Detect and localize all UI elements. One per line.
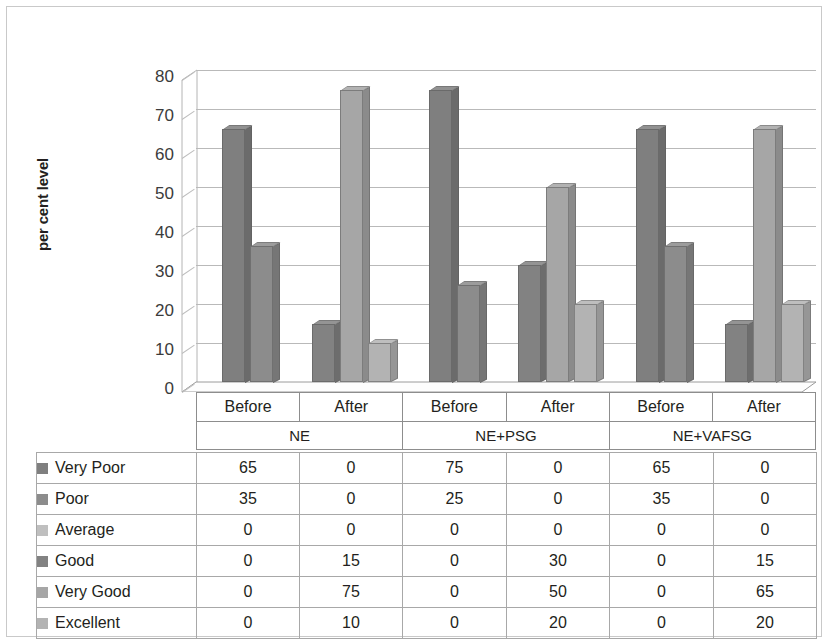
legend-label: Very Good [55, 583, 131, 600]
table-cell-r2-c0: 0 [197, 515, 300, 546]
table-cell-r1-c0: 35 [197, 484, 300, 515]
y-axis-tick-70: 70 [126, 107, 174, 124]
table-cell-r2-c4: 0 [610, 515, 714, 546]
bar-series-container [182, 70, 816, 392]
y-axis-tick-50: 50 [126, 185, 174, 202]
bar-face [429, 90, 452, 383]
y-axis-tick-30: 30 [126, 263, 174, 280]
bar-very-good-cat-1 [340, 90, 363, 383]
bar-face [518, 265, 541, 382]
bar-face [546, 187, 569, 382]
table-cell-r0-c0: 65 [197, 453, 300, 484]
bar-face [664, 246, 687, 383]
legend-entry-very-good: Very Good [37, 577, 197, 608]
table-cell-r5-c1: 10 [300, 608, 403, 639]
legend-swatch-icon [37, 556, 48, 567]
bar-very-poor-cat-0 [222, 129, 245, 383]
table-row: Good015030015 [37, 546, 817, 577]
bar-face [636, 129, 659, 383]
legend-entry-good: Good [37, 546, 197, 577]
table-cell-r3-c2: 0 [403, 546, 507, 577]
legend-label: Very Poor [55, 459, 125, 476]
bar-very-good-cat-3 [546, 187, 569, 382]
table-cell-r1-c1: 0 [300, 484, 403, 515]
table-cell-r1-c2: 25 [403, 484, 507, 515]
bar-side [480, 281, 487, 382]
category-label-4: Before [610, 393, 713, 421]
y-axis-tick-labels: 80706050403020100 [126, 76, 174, 388]
bar-face [574, 304, 597, 382]
bar-face [368, 343, 391, 382]
table-cell-r5-c2: 0 [403, 608, 507, 639]
bar-excellent-cat-1 [368, 343, 391, 382]
table-cell-r4-c0: 0 [197, 577, 300, 608]
table-cell-r5-c0: 0 [197, 608, 300, 639]
bar-face [725, 324, 748, 383]
bar-face [222, 129, 245, 383]
category-label-row: BeforeAfterBeforeAfterBeforeAfter [197, 393, 815, 421]
group-label-ne: NE [197, 422, 403, 449]
table-cell-r2-c1: 0 [300, 515, 403, 546]
bar-very-good-cat-5 [753, 129, 776, 383]
data-table: Very Poor650750650Poor350250350Average00… [36, 452, 817, 639]
table-cell-r4-c2: 0 [403, 577, 507, 608]
bar-side [597, 301, 604, 382]
y-axis-title: per cent level [34, 115, 51, 295]
bar-excellent-cat-5 [781, 304, 804, 382]
legend-label: Excellent [55, 614, 120, 631]
bar-face [781, 304, 804, 382]
legend-label: Poor [55, 490, 89, 507]
y-axis-tick-20: 20 [126, 302, 174, 319]
table-cell-r3-c0: 0 [197, 546, 300, 577]
group-label-row: NENE+PSGNE+VAFSG [197, 421, 815, 449]
bar-very-poor-cat-4 [636, 129, 659, 383]
table-cell-r0-c2: 75 [403, 453, 507, 484]
bar-face [457, 285, 480, 383]
category-label-0: Before [197, 393, 300, 421]
bar-poor-cat-4 [664, 246, 687, 383]
y-axis-tick-60: 60 [126, 146, 174, 163]
table-row: Average000000 [37, 515, 817, 546]
bar-good-cat-1 [312, 324, 335, 383]
legend-label: Average [55, 521, 114, 538]
bar-face [753, 129, 776, 383]
bar-side [363, 86, 370, 382]
table-cell-r3-c4: 0 [610, 546, 714, 577]
bar-side [273, 242, 280, 382]
category-label-5: After [713, 393, 815, 421]
table-cell-r0-c3: 0 [507, 453, 610, 484]
category-label-2: Before [403, 393, 506, 421]
table-cell-r0-c1: 0 [300, 453, 403, 484]
plot-area [182, 70, 816, 392]
table-cell-r1-c3: 0 [507, 484, 610, 515]
table-row: Poor350250350 [37, 484, 817, 515]
table-cell-r3-c5: 15 [714, 546, 817, 577]
table-cell-r2-c2: 0 [403, 515, 507, 546]
category-label-1: After [300, 393, 403, 421]
legend-swatch-icon [37, 463, 48, 474]
table-cell-r4-c3: 50 [507, 577, 610, 608]
table-cell-r5-c3: 20 [507, 608, 610, 639]
legend-swatch-icon [37, 525, 48, 536]
bar-good-cat-5 [725, 324, 748, 383]
legend-entry-excellent: Excellent [37, 608, 197, 639]
table-cell-r4-c4: 0 [610, 577, 714, 608]
bar-excellent-cat-3 [574, 304, 597, 382]
table-cell-r1-c5: 0 [714, 484, 817, 515]
legend-swatch-icon [37, 494, 48, 505]
bar-poor-cat-2 [457, 285, 480, 383]
y-axis-tick-40: 40 [126, 224, 174, 241]
y-axis-tick-80: 80 [126, 68, 174, 85]
legend-label: Good [55, 552, 94, 569]
legend-swatch-icon [37, 587, 48, 598]
bar-face [312, 324, 335, 383]
table-cell-r2-c3: 0 [507, 515, 610, 546]
y-axis-tick-0: 0 [126, 380, 174, 397]
table-cell-r1-c4: 35 [610, 484, 714, 515]
bar-face [250, 246, 273, 383]
category-axis: BeforeAfterBeforeAfterBeforeAfter NENE+P… [196, 392, 816, 450]
legend-entry-average: Average [37, 515, 197, 546]
table-cell-r4-c1: 75 [300, 577, 403, 608]
table-cell-r3-c3: 30 [507, 546, 610, 577]
